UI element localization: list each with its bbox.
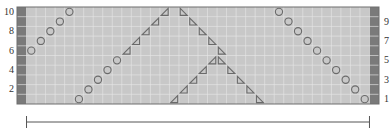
row-label: 3 — [384, 75, 389, 85]
row-label: 7 — [384, 36, 389, 46]
row-label: 6 — [9, 46, 14, 56]
row-label: 5 — [384, 55, 389, 65]
row-label: 9 — [384, 17, 389, 27]
row-label: 8 — [9, 26, 14, 36]
row-label: 4 — [9, 65, 14, 75]
stitch-chart — [0, 0, 391, 128]
width-measure-bar — [27, 116, 370, 128]
row-label: 2 — [9, 84, 14, 94]
row-label: 10 — [4, 7, 14, 17]
row-label: 1 — [384, 94, 389, 104]
chart-grid — [17, 7, 379, 104]
